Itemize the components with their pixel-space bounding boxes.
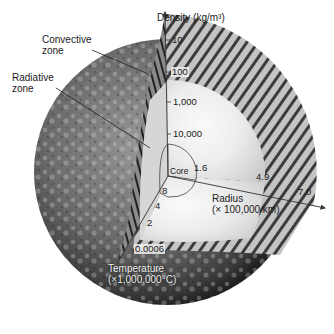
temperature-axis-label: Temperature (×1,000,000°C) xyxy=(108,263,176,285)
radius-axis-label: Radius (× 100,000 km) xyxy=(212,193,280,215)
density-tick-100: 100 xyxy=(171,67,189,77)
radiative-zone-label: Radiative zone xyxy=(12,72,54,94)
density-tick-1000: 1,000 xyxy=(172,97,198,107)
sun-structure-diagram: Density (kg/m³) 10 100 1,000 10,000 Conv… xyxy=(0,0,334,334)
radius-tick-4-9: 4.9 xyxy=(255,172,270,182)
density-tick-10000: 10,000 xyxy=(172,129,203,139)
core-label: Core xyxy=(169,166,189,176)
density-tick-10: 10 xyxy=(171,35,184,45)
convective-zone-label: Convective zone xyxy=(42,34,91,56)
temperature-tick-2: 2 xyxy=(146,218,153,228)
temperature-tick-4: 4 xyxy=(154,201,161,211)
temperature-tick-8: 8 xyxy=(161,186,168,196)
temperature-tick-0-0006: 0.0006 xyxy=(134,244,165,254)
density-axis-label: Density (kg/m³) xyxy=(157,12,225,23)
radius-tick-7-0: 7.0 xyxy=(297,187,312,197)
radius-tick-1-6: 1.6 xyxy=(193,163,208,173)
